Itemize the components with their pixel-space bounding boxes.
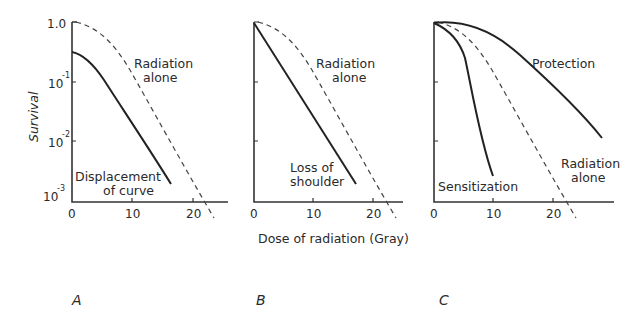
panel-letter-c: C (439, 292, 449, 308)
panel-a-x-tick-0: 0 (68, 207, 76, 221)
panel-a-x-tick-20: 20 (186, 207, 201, 221)
panel-c-protection-label: Protection (532, 56, 595, 71)
y-tick-0.01: 10 (48, 136, 63, 150)
panel-c: Protection Radiation alone Sensitization… (430, 22, 620, 221)
panel-b-radiation-label-2: alone (332, 70, 367, 85)
y-tick-1: 1.0 (47, 17, 66, 31)
survival-curves-figure: Radiation alone Displacement of curve 1.… (0, 0, 642, 323)
panel-c-x-tick-10: 10 (486, 207, 501, 221)
panel-b: Radiation alone Loss of shoulder 0 10 20 (250, 22, 403, 221)
y-tick-0.001: 10 (43, 190, 58, 204)
panel-b-x-tick-10: 10 (306, 207, 321, 221)
panel-letter-a: A (71, 292, 82, 308)
panel-c-x-tick-20: 20 (546, 207, 561, 221)
panel-b-x-tick-20: 20 (366, 207, 381, 221)
y-tick-0.1: 10 (48, 77, 63, 91)
panel-b-loss-label-1: Loss of (290, 160, 334, 175)
panel-b-x-tick-0: 0 (250, 207, 258, 221)
x-axis-label: Dose of radiation (Gray) (258, 231, 409, 246)
panel-c-x-tick-0: 0 (430, 207, 438, 221)
y-tick-0.001-exp: -3 (57, 184, 65, 193)
y-tick-0.01-exp: -2 (62, 130, 70, 139)
panel-letter-b: B (256, 292, 266, 308)
panel-b-loss-label-2: shoulder (290, 174, 345, 189)
panel-a-x-tick-10: 10 (125, 207, 140, 221)
y-tick-0.1-exp: -1 (62, 71, 70, 80)
panel-c-sensitization-curve (434, 23, 493, 176)
panel-a-radiation-label-1: Radiation (134, 56, 193, 71)
y-axis-label: Survival (26, 91, 41, 142)
panel-c-radiation-label-2: alone (571, 170, 606, 185)
panel-a-radiation-label-2: alone (143, 70, 178, 85)
panel-a-displacement-label-2: of curve (103, 183, 154, 198)
panel-c-radiation-label-1: Radiation (561, 156, 620, 171)
panel-c-sensitization-label: Sensitization (438, 179, 518, 194)
panel-c-protection-curve (434, 22, 602, 138)
panel-b-radiation-label-1: Radiation (316, 56, 375, 71)
panel-a: Radiation alone Displacement of curve 1.… (26, 17, 228, 221)
panel-a-displacement-label-1: Displacement (75, 169, 161, 184)
